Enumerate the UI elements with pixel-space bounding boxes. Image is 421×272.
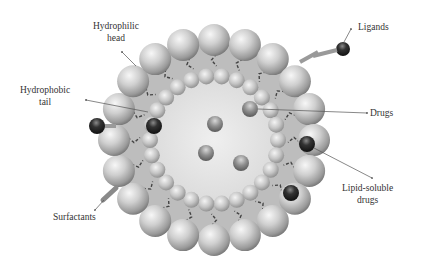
inner-head-bead	[144, 147, 160, 163]
label-hydrophilic-head: Hydrophilic head	[93, 20, 139, 44]
outer-head-bead	[198, 224, 230, 256]
outer-head-bead	[229, 29, 261, 61]
label-hydrophobic-tail: Hydrophobic tail	[20, 84, 70, 108]
inner-head-bead	[198, 68, 214, 84]
label-drugs: Drugs	[370, 107, 393, 119]
label-line: head	[93, 32, 139, 44]
outer-head-bead	[103, 93, 135, 125]
pointer-ligands	[344, 29, 351, 42]
inner-head-bead	[268, 117, 284, 133]
label-line: Hydrophobic	[20, 84, 70, 96]
liposome-illustration	[0, 0, 421, 272]
inner-head-bead	[229, 192, 245, 208]
label-line: Lipid-soluble	[342, 182, 393, 194]
outer-head-bead	[167, 29, 199, 61]
ligand-molecule-right	[300, 42, 350, 62]
inner-head-bead	[183, 192, 199, 208]
pointer-surfactants	[95, 200, 104, 210]
outer-head-bead	[117, 183, 149, 215]
inner-head-bead	[214, 196, 230, 212]
inner-head-bead	[198, 196, 214, 212]
outer-head-bead	[198, 24, 230, 56]
outer-head-bead	[139, 43, 171, 75]
outer-head-bead	[167, 219, 199, 251]
inner-head-bead	[268, 147, 284, 163]
inner-head-bead	[183, 72, 199, 88]
outer-head-bead	[279, 65, 311, 97]
label-line: Hydrophilic	[93, 20, 139, 32]
outer-head-bead	[257, 205, 289, 237]
inner-head-bead	[270, 132, 286, 148]
inner-head-bead	[242, 185, 258, 201]
inner-head-bead	[214, 68, 230, 84]
label-lipid-soluble-drugs: Lipid-soluble drugs	[342, 182, 393, 206]
pointer-hydrophilic-head	[122, 52, 136, 66]
inner-head-bead	[170, 79, 186, 95]
inner-head-bead	[263, 102, 279, 118]
liposome-diagram: Hydrophilic head Hydrophobic tail Ligand…	[0, 0, 421, 272]
label-ligands: Ligands	[358, 21, 389, 33]
label-surfactants: Surfactants	[53, 211, 96, 223]
outer-head-bead	[103, 155, 135, 187]
surfactant-molecule	[103, 188, 116, 200]
inner-head-bead	[149, 162, 165, 178]
outer-head-bead	[293, 93, 325, 125]
label-line: drugs	[342, 194, 393, 206]
label-line: tail	[20, 96, 70, 108]
outer-head-bead	[293, 155, 325, 187]
inner-head-bead	[229, 72, 245, 88]
outer-head-bead	[229, 219, 261, 251]
inner-head-bead	[142, 132, 158, 148]
